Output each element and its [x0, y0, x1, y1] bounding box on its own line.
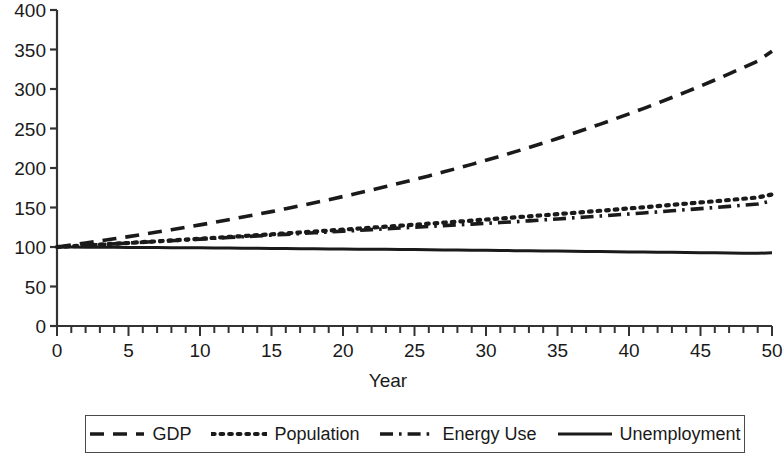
y-tick-label: 100 — [0, 238, 46, 257]
legend-entry-gdp: GDP — [89, 424, 191, 445]
y-tick-label: 0 — [0, 317, 46, 336]
legend-entry-energy-use: Energy Use — [379, 424, 536, 445]
y-tick-label: 250 — [0, 119, 46, 138]
y-tick-label: 50 — [0, 277, 46, 296]
x-tick-label: 45 — [690, 341, 711, 360]
legend-line-sample-icon — [89, 427, 145, 441]
legend-label: Unemployment — [620, 424, 741, 445]
legend-line-sample-icon — [557, 427, 613, 441]
y-tick-label: 150 — [0, 198, 46, 217]
legend-label: Population — [274, 424, 359, 445]
legend-label: Energy Use — [442, 424, 536, 445]
x-tick-label: 25 — [404, 341, 425, 360]
y-tick-label: 300 — [0, 80, 46, 99]
x-tick-label: 20 — [332, 341, 353, 360]
series-line-gdp — [57, 51, 772, 247]
x-tick-label: 30 — [475, 341, 496, 360]
x-tick-label: 35 — [547, 341, 568, 360]
series-line-population — [57, 194, 772, 247]
y-tick-label: 200 — [0, 159, 46, 178]
x-tick-label: 0 — [52, 341, 63, 360]
y-tick-label: 400 — [0, 1, 46, 20]
x-tick-label: 15 — [261, 341, 282, 360]
legend-label: GDP — [152, 424, 191, 445]
x-tick-label: 40 — [618, 341, 639, 360]
x-axis-title: Year — [0, 370, 776, 392]
data-series — [57, 51, 772, 253]
y-tick-label: 350 — [0, 40, 46, 59]
legend-line-sample-icon — [379, 427, 435, 441]
legend-entry-population: Population — [211, 424, 359, 445]
series-line-unemployment — [57, 247, 772, 253]
chart-legend: GDPPopulationEnergy UseUnemployment — [85, 415, 745, 453]
legend-entry-unemployment: Unemployment — [557, 424, 741, 445]
x-tick-label: 5 — [123, 341, 134, 360]
x-tick-label: 10 — [189, 341, 210, 360]
x-tick-label: 50 — [761, 341, 782, 360]
legend-line-sample-icon — [211, 427, 267, 441]
axes — [50, 10, 772, 336]
